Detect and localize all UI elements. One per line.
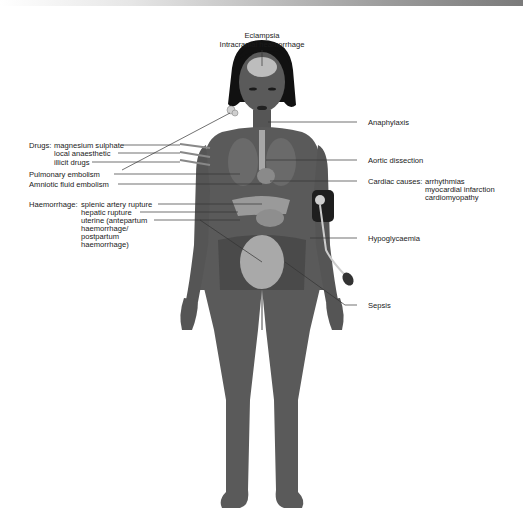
label-cardiac-cardiomyopathy: cardiomyopathy — [425, 193, 479, 202]
label-amniotic-fluid-embolism: Amniotic fluid embolism — [29, 180, 109, 189]
label-drugs-heading: Drugs: — [29, 141, 51, 150]
label-hypoglycaemia: Hypoglycaemia — [368, 234, 420, 243]
left-leg — [204, 288, 262, 508]
label-sepsis: Sepsis — [368, 301, 391, 310]
right-leg — [262, 288, 320, 508]
label-eclampsia: Eclampsia — [200, 31, 324, 40]
stomach — [256, 209, 284, 227]
blood-pressure-cuff — [312, 190, 334, 222]
label-anaphylaxis: Anaphylaxis — [368, 118, 409, 127]
label-aortic-dissection: Aortic dissection — [368, 156, 423, 165]
label-pulmonary-embolism: Pulmonary embolism — [29, 170, 100, 179]
label-intracranial-haemorrhage: Intracranial heamorrhage — [200, 40, 324, 49]
label-haemorrhage-uterine-4: haemorrhage) — [81, 240, 129, 249]
left-lung — [228, 138, 258, 186]
label-drug-illicit-drugs: illicit drugs — [54, 158, 89, 167]
trachea — [259, 130, 265, 170]
female-body-illustration — [0, 0, 523, 523]
heart-icon — [257, 168, 275, 184]
label-top: Eclampsia Intracranial heamorrhage — [200, 31, 324, 49]
label-haemorrhage-heading: Haemorrhage: — [29, 200, 78, 209]
label-cardiac-heading: Cardiac causes: — [368, 177, 422, 186]
label-drug-local-anaesthetic: local anaesthetic — [54, 149, 111, 158]
